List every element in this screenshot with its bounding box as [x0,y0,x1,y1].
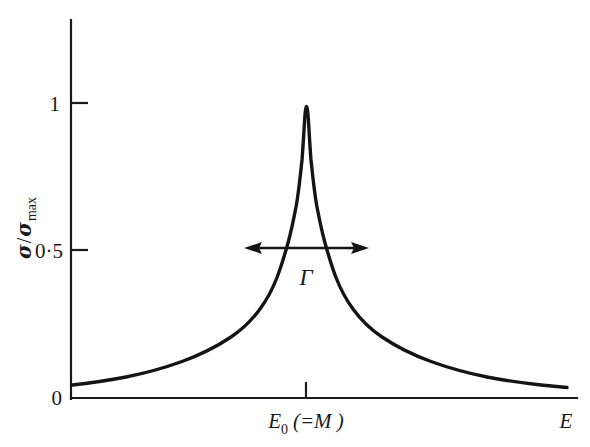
svg-text:σ/σmax: σ/σmax [12,197,39,259]
figure-container: 1 0·5 0 σ/σmax E0(=M ) E Γ [0,0,590,447]
gamma-width-label: Γ [298,265,313,290]
y-tick-label-0point5: 0·5 [35,239,63,263]
x-tick-label-e0-subscript: 0 [281,422,288,437]
x-axis-title: E [559,409,573,433]
y-tick-label-1: 1 [50,92,61,116]
y-axis-title-sigma-numerator: σ [12,244,36,259]
y-axis-title-sigma-denominator: σ [12,222,36,237]
y-axis-title-slash: / [13,237,35,243]
y-tick-label-0: 0 [52,386,63,410]
breit-wigner-resonance-plot: 1 0·5 0 σ/σmax E0(=M ) E Γ [0,0,590,447]
x-tick-label-e0: E0(=M ) [267,409,344,437]
y-axis-title-max-subscript: max [24,197,39,221]
x-tick-label-e0-paren: (=M ) [293,409,344,433]
x-tick-label-e0-symbol: E [267,409,281,433]
y-axis-title: σ/σmax [12,197,39,259]
